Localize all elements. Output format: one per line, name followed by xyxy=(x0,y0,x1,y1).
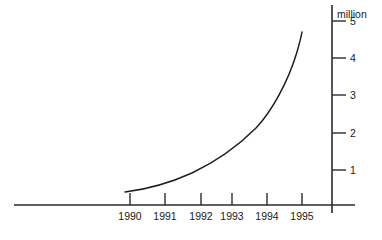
x-axis-label-1991: 1991 xyxy=(145,211,185,222)
x-axis-label-1995: 1995 xyxy=(282,211,322,222)
y-axis-label-1: 1 xyxy=(350,165,356,176)
x-axis-label-1993: 1993 xyxy=(212,211,252,222)
y-axis-label-5: 5 xyxy=(350,16,356,27)
x-axis-label-1990: 1990 xyxy=(110,211,150,222)
x-axis-label-1994: 1994 xyxy=(247,211,287,222)
chart-plot-area xyxy=(0,0,382,240)
y-axis-label-3: 3 xyxy=(350,90,356,101)
data-curve-series-1 xyxy=(125,32,302,192)
y-axis-label-4: 4 xyxy=(350,53,356,64)
chart-container: million 5 4 3 2 1 1990 1991 1992 1993 19… xyxy=(0,0,382,240)
y-axis-label-2: 2 xyxy=(350,128,356,139)
